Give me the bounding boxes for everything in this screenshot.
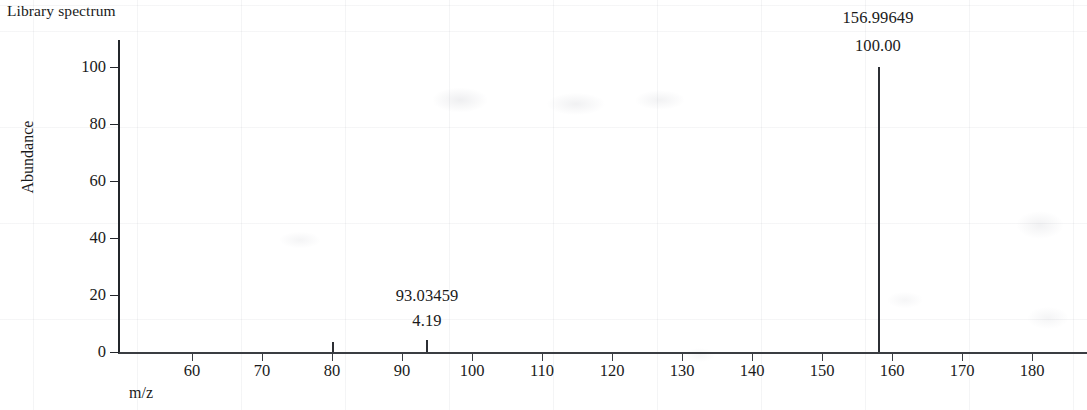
x-tick-70 [262, 353, 263, 361]
x-tick-170 [962, 353, 963, 361]
y-tick-60 [110, 181, 119, 182]
x-tick-label-170: 170 [932, 362, 992, 380]
peak-label-mz-157: 156.99649 [778, 9, 978, 26]
mass-spectrum-plot: 0 20 40 60 80 100 60 70 80 90 100 110 12… [0, 0, 1087, 410]
y-tick-label-60: 60 [62, 173, 106, 189]
x-tick-130 [682, 353, 683, 361]
x-tick-label-160: 160 [862, 362, 922, 380]
y-axis-title: Abundance [19, 97, 37, 217]
y-tick-20 [110, 295, 119, 296]
x-tick-label-120: 120 [582, 362, 642, 380]
x-tick-label-100: 100 [442, 362, 502, 380]
x-tick-label-70: 70 [232, 362, 292, 380]
y-tick-label-80: 80 [62, 116, 106, 132]
peak-label-abundance-157: 100.00 [778, 37, 978, 54]
x-tick-100 [472, 353, 473, 361]
x-tick-label-140: 140 [722, 362, 782, 380]
peak-label-mz-93: 93.03459 [327, 287, 527, 304]
x-tick-120 [612, 353, 613, 361]
x-tick-60 [192, 353, 193, 361]
y-tick-0 [110, 352, 119, 353]
x-tick-140 [752, 353, 753, 361]
y-tick-label-20: 20 [62, 287, 106, 303]
x-tick-label-150: 150 [792, 362, 852, 380]
y-tick-100 [110, 67, 119, 68]
y-tick-label-40: 40 [62, 230, 106, 246]
x-tick-label-60: 60 [162, 362, 222, 380]
x-tick-label-180: 180 [1002, 362, 1062, 380]
x-tick-110 [542, 353, 543, 361]
x-tick-80 [332, 353, 333, 361]
chart-title: Library spectrum [7, 1, 116, 21]
peak-line-157 [878, 67, 880, 352]
y-tick-80 [110, 124, 119, 125]
peak-label-abundance-93: 4.19 [327, 312, 527, 329]
x-tick-label-130: 130 [652, 362, 712, 380]
x-tick-label-90: 90 [372, 362, 432, 380]
x-axis-title: m/z [129, 384, 153, 402]
x-tick-label-80: 80 [302, 362, 362, 380]
y-axis-line [118, 40, 120, 353]
peak-line-93 [426, 340, 428, 352]
y-tick-label-0: 0 [62, 344, 106, 360]
x-tick-90 [402, 353, 403, 361]
peak-line-80 [332, 342, 334, 352]
x-tick-label-110: 110 [512, 362, 572, 380]
y-tick-label-100: 100 [62, 59, 106, 75]
y-tick-40 [110, 238, 119, 239]
x-tick-180 [1032, 353, 1033, 361]
x-tick-160 [892, 353, 893, 361]
x-tick-150 [822, 353, 823, 361]
